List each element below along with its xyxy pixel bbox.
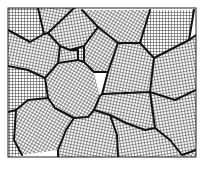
grain-structure-diagram (0, 0, 204, 170)
